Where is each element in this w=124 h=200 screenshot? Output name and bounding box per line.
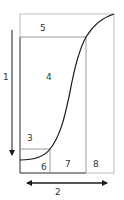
curve-diagram: 5 4 3 6 7 8 1 2 bbox=[0, 0, 124, 200]
label-5: 5 bbox=[40, 23, 46, 33]
label-8: 8 bbox=[93, 159, 99, 169]
label-7: 7 bbox=[65, 159, 71, 169]
label-axis-1: 1 bbox=[3, 72, 9, 82]
label-axis-2: 2 bbox=[55, 187, 61, 197]
label-3: 3 bbox=[27, 133, 33, 143]
label-4: 4 bbox=[46, 72, 52, 82]
label-6: 6 bbox=[41, 162, 47, 172]
sigmoid-curve bbox=[20, 14, 114, 160]
